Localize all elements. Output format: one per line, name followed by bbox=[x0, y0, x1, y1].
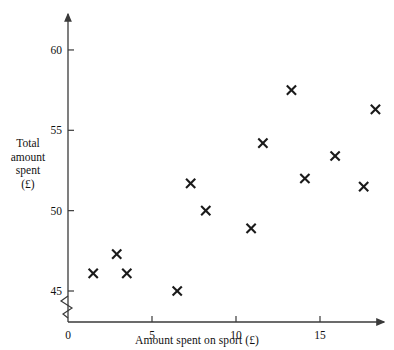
data-point: (15.9, 53.4) bbox=[331, 151, 340, 160]
y-axis-title-line-2: amount bbox=[2, 151, 54, 165]
data-point: (2.9, 47.3) bbox=[112, 249, 121, 258]
plot-area: 45505560 051015 (1.5, 46.1)(2.9, 47.3)(3… bbox=[0, 0, 394, 350]
data-point: (14.1, 52) bbox=[300, 174, 309, 183]
y-axis-title-line-3: spent bbox=[2, 164, 54, 178]
data-point-group: (1.5, 46.1)(2.9, 47.3)(3.5, 46.1)(6.5, 4… bbox=[89, 86, 380, 296]
data-point: (1.5, 46.1) bbox=[89, 269, 98, 278]
data-point: (7.3, 51.7) bbox=[186, 179, 195, 188]
data-point: (6.5, 45) bbox=[173, 286, 182, 295]
y-axis-title-line-4: (£) bbox=[2, 178, 54, 192]
x-axis-title: Amount spent on sport (£) bbox=[0, 334, 394, 347]
data-point: (8.2, 50) bbox=[201, 206, 210, 215]
y-axis-break-icon bbox=[61, 296, 72, 318]
y-tick-label: 50 bbox=[51, 205, 63, 217]
scatter-plot-figure: 45505560 051015 (1.5, 46.1)(2.9, 47.3)(3… bbox=[0, 0, 394, 350]
y-tick-group: 45505560 bbox=[51, 44, 75, 297]
y-tick-label: 45 bbox=[51, 285, 63, 297]
y-axis-title-line-1: Total bbox=[2, 137, 54, 151]
data-point: (18.3, 56.3) bbox=[371, 105, 380, 114]
data-point: (13.3, 57.5) bbox=[287, 86, 296, 95]
data-point: (11.6, 54.2) bbox=[258, 139, 267, 148]
data-point: (17.6, 51.5) bbox=[359, 182, 368, 191]
y-axis-title: Total amount spent (£) bbox=[2, 137, 54, 191]
y-tick-label: 55 bbox=[51, 124, 63, 136]
data-point: (3.5, 46.1) bbox=[122, 269, 131, 278]
y-tick-label: 60 bbox=[51, 44, 63, 56]
data-point: (10.9, 48.9) bbox=[247, 224, 256, 233]
